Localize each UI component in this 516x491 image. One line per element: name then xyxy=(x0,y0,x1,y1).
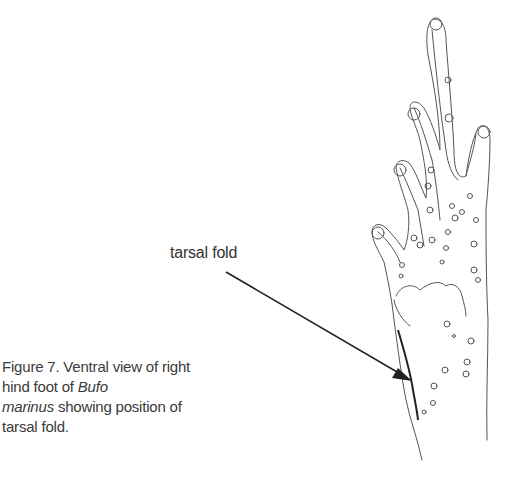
figure-caption: Figure 7. Ventral view of right hind foo… xyxy=(2,357,212,437)
label-arrow xyxy=(226,272,404,376)
foot-outline xyxy=(372,19,490,460)
caption-genus: Bufo xyxy=(78,378,108,395)
caption-species: marinus xyxy=(2,398,54,415)
tarsal-fold-label: tarsal fold xyxy=(170,244,237,262)
figure-7: tarsal fold Figure 7. Ventral view of ri… xyxy=(0,0,516,491)
